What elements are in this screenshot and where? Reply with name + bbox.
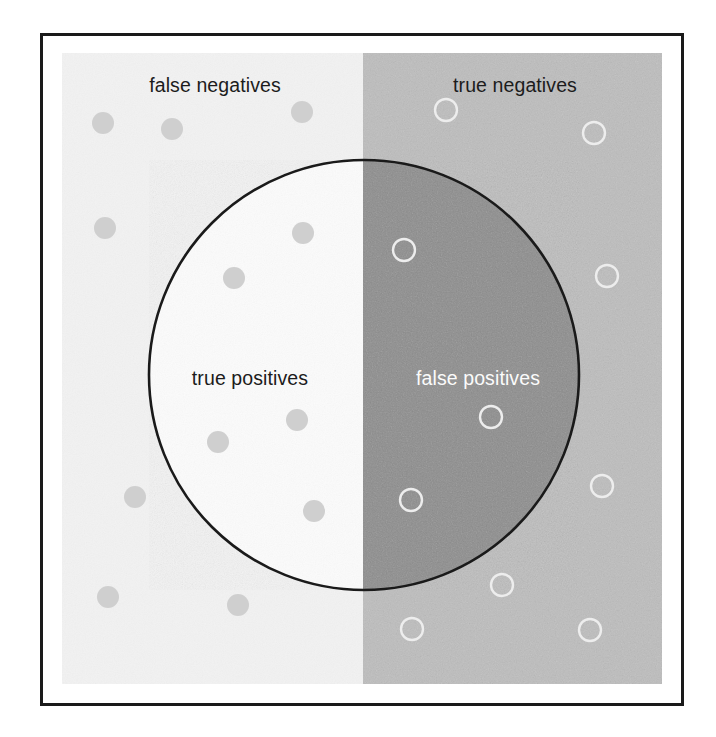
diagram-canvas	[0, 0, 716, 737]
positive-case-dot	[292, 222, 314, 244]
positive-case-dot	[303, 500, 325, 522]
positive-case-dot	[97, 586, 119, 608]
positive-case-dot	[94, 217, 116, 239]
positive-case-dot	[223, 267, 245, 289]
classifier-circle	[149, 160, 579, 590]
positive-case-dot	[291, 101, 313, 123]
positive-case-dot	[161, 118, 183, 140]
positive-case-dot	[207, 431, 229, 453]
positive-case-dot	[227, 594, 249, 616]
positive-case-dot	[92, 112, 114, 134]
figure-root: false negatives true negatives true posi…	[0, 0, 716, 737]
positive-case-dot	[124, 486, 146, 508]
positive-case-dot	[286, 409, 308, 431]
